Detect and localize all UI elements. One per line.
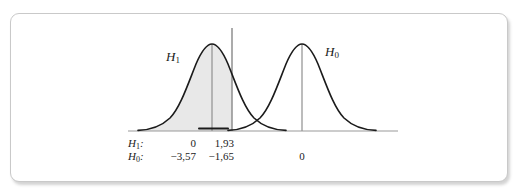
value-row-h1: H1: 0 1,93 [128, 137, 408, 150]
h1-curve-label: H1 [166, 50, 180, 63]
value-table: H1: 0 1,93 H0: −3,57 −1,65 0 [128, 137, 408, 163]
value-h0-mean: 0 [290, 150, 314, 163]
value-row-h0: H0: −3,57 −1,65 0 [128, 150, 408, 163]
value-h1-critical: 1,93 [200, 137, 234, 150]
normal-curves-figure [0, 0, 520, 193]
value-h0-at-h1-mean: −3,57 [162, 150, 196, 163]
value-h0-critical: −1,65 [200, 150, 234, 163]
screenshot-root: H1 H0 H1: 0 1,93 H0: −3,57 −1,65 0 [0, 0, 520, 193]
value-row-h0-key: H0: [128, 150, 144, 164]
h0-curve-label: H0 [325, 45, 339, 58]
value-h1-mean: 0 [162, 137, 196, 150]
value-row-h1-key: H1: [128, 137, 144, 151]
h1-shaded-region [138, 44, 232, 131]
